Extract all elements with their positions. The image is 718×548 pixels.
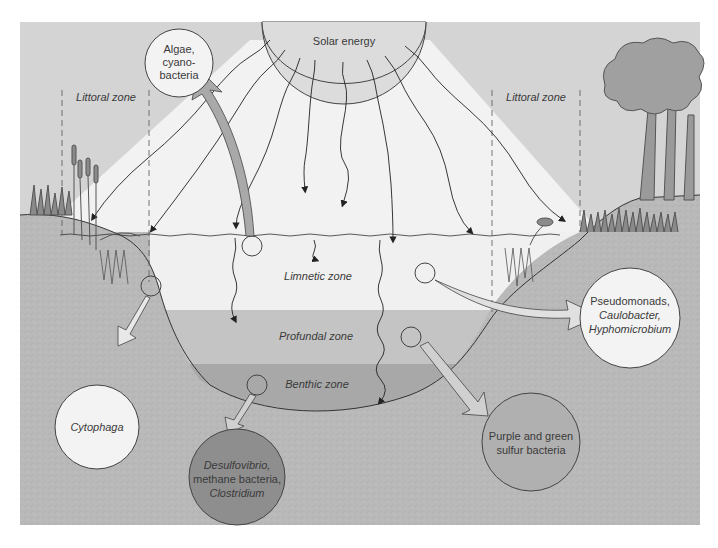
littoral-zone-left-label: Littoral zone [76,91,136,103]
cytophaga-label: Cytophaga [70,421,123,433]
pseudomonads-label-1: Pseudomonads, [590,295,670,307]
benthic-zone-label: Benthic zone [285,378,349,390]
solar-energy-label: Solar energy [313,35,376,47]
algae-label-3: bacteria [159,69,199,81]
lake-ecosystem-diagram: Solar energy Algae, cyano- bacteria Litt… [0,0,718,548]
algae-label-1: Algae, [163,43,194,55]
profundal-zone-label: Profundal zone [279,330,353,342]
littoral-zone-right-label: Littoral zone [506,91,566,103]
purple-green-label-1: Purple and green [489,430,573,442]
purple-green-circle [482,393,580,491]
limnetic-zone-label: Limnetic zone [284,270,352,282]
pseudomonads-label-2: Caulobacter, [599,309,661,321]
purple-green-label-2: sulfur bacteria [496,444,566,456]
desulfovibrio-label-3: Clostridium [209,487,264,499]
desulfovibrio-label-2: methane bacteria, [193,473,281,485]
desulfovibrio-label-1: Desulfovibrio, [204,459,271,471]
pseudomonads-label-3: Hyphomicrobium [589,323,672,335]
algae-label-2: cyano- [162,56,195,68]
